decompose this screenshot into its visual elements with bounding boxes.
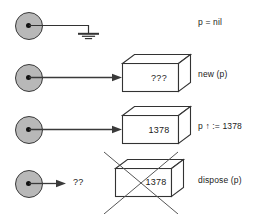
diagram-row-assign: 1378 p ↑ := 1378 — [0, 104, 268, 158]
box-content-new: ??? — [131, 73, 187, 83]
box-content-assign: 1378 — [131, 125, 187, 135]
code-label-assign: p ↑ := 1378 — [198, 121, 242, 131]
nil-connector-graphics — [0, 0, 268, 54]
code-label-new: new (p) — [198, 69, 227, 79]
dispose-cross-out-icon — [0, 158, 268, 212]
code-label-nil: p = nil — [198, 17, 222, 27]
diagram-row-nil: p = nil — [0, 0, 268, 54]
pointer-diagram: p = nil ??? new (p) — [0, 0, 268, 214]
diagram-row-new: ??? new (p) — [0, 52, 268, 106]
diagram-row-dispose: 1378 ?? dispose (p) — [0, 158, 268, 212]
